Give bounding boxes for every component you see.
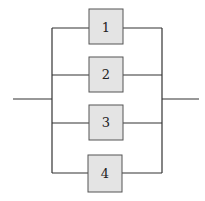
diagram-svg: 1 2 3 4 <box>0 0 205 201</box>
parallel-system-diagram: 1 2 3 4 <box>0 0 205 201</box>
block-3-label: 3 <box>102 115 110 130</box>
block-1-label: 1 <box>102 20 110 35</box>
block-4-label: 4 <box>101 166 109 181</box>
block-2-label: 2 <box>102 67 110 82</box>
